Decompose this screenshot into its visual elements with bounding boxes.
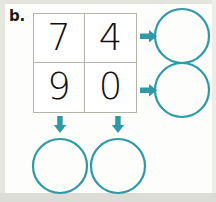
digit-value: 4 [99, 19, 123, 56]
grid-cell-row2-col1[interactable]: 9 [34, 63, 85, 112]
exercise-label: b. [9, 9, 25, 24]
digit-value: 9 [47, 68, 71, 105]
grid-cell-row2-col2[interactable]: 0 [85, 63, 136, 112]
grid-cell-row1-col1[interactable]: 7 [34, 14, 85, 63]
worksheet-page: b. 7 4 9 0 [0, 0, 216, 202]
digit-value: 0 [99, 68, 123, 105]
grid-cell-row1-col2[interactable]: 4 [85, 14, 136, 63]
paper-edge-right [212, 0, 216, 202]
paper-edge-bottom [0, 193, 216, 202]
two-by-two-digit-grid: 7 4 9 0 [33, 13, 137, 113]
digit-value: 7 [47, 19, 71, 56]
